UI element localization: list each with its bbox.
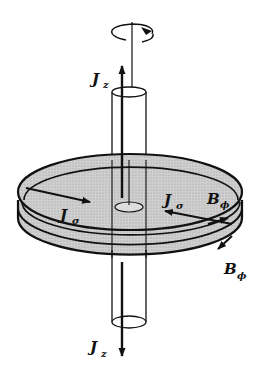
svg-text:σ: σ <box>176 200 184 211</box>
svg-text:B: B <box>223 260 237 278</box>
label-jz-bottom: J z <box>87 338 107 359</box>
svg-text:σ: σ <box>72 215 80 226</box>
disk-diagram: J z J z J σ J σ B ϕ B ϕ <box>0 0 262 371</box>
label-bphi-lower: B ϕ <box>223 260 247 281</box>
svg-text:B: B <box>206 190 220 208</box>
svg-text:z: z <box>100 348 107 359</box>
svg-text:J: J <box>87 338 98 356</box>
svg-text:J: J <box>89 70 100 88</box>
svg-text:z: z <box>102 79 109 90</box>
lower-cylinder <box>112 250 146 328</box>
label-jz-top: J z <box>89 70 109 90</box>
svg-text:ϕ: ϕ <box>220 199 230 210</box>
svg-text:ϕ: ϕ <box>237 270 247 281</box>
